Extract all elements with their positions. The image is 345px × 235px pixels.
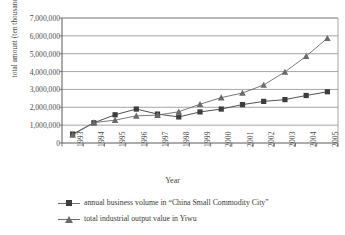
x-tick-label: 1994 <box>97 131 106 147</box>
x-tick-label: 1996 <box>140 131 149 147</box>
data-point-triangle <box>239 90 246 96</box>
series-line <box>73 38 328 135</box>
x-tick-label: 2002 <box>267 131 276 147</box>
data-point-square <box>134 106 139 111</box>
square-marker-icon <box>58 198 80 208</box>
y-tick-label: 7,000,000 <box>14 14 60 23</box>
data-point-triangle <box>260 82 267 88</box>
x-tick-label: 1993 <box>76 131 85 147</box>
data-point-square <box>176 114 181 119</box>
y-axis-tick-labels: 01,000,0002,000,0003,000,0004,000,0005,0… <box>14 0 60 235</box>
legend-item-label: annual business volume in “China Small C… <box>84 199 269 207</box>
legend-item: total industrial output value in Yiwu <box>58 211 345 227</box>
chart-legend: annual business volume in “China Small C… <box>58 195 345 227</box>
data-point-square <box>325 89 330 94</box>
y-tick-label: 2,000,000 <box>14 103 60 112</box>
y-tick-label: 0 <box>14 139 60 148</box>
data-point-square <box>304 93 309 98</box>
x-tick-label: 2005 <box>331 131 340 147</box>
x-tick-label: 1999 <box>203 131 212 147</box>
x-tick-label: 2000 <box>224 131 233 147</box>
data-point-triangle <box>175 108 182 114</box>
triangle-marker-icon <box>58 214 80 224</box>
legend-item-label: total industrial output value in Yiwu <box>84 215 197 223</box>
y-tick-label: 3,000,000 <box>14 85 60 94</box>
x-tick-label: 2001 <box>246 131 255 147</box>
legend-item: annual business volume in “China Small C… <box>58 195 345 211</box>
data-point-square <box>240 102 245 107</box>
x-tick-label: 2003 <box>288 131 297 147</box>
y-tick-label: 4,000,000 <box>14 67 60 76</box>
data-point-square <box>219 106 224 111</box>
x-tick-label: 2004 <box>309 131 318 147</box>
x-tick-label: 1995 <box>118 131 127 147</box>
x-axis-title: Year <box>0 176 345 185</box>
data-point-square <box>112 112 117 117</box>
data-point-square <box>282 97 287 102</box>
x-tick-label: 1998 <box>182 131 191 147</box>
y-tick-label: 1,000,000 <box>14 121 60 130</box>
data-point-square <box>261 99 266 104</box>
data-point-square <box>197 109 202 114</box>
y-tick-label: 5,000,000 <box>14 49 60 58</box>
data-point-triangle <box>197 101 204 107</box>
chart-container: total amount (ten thousand Yuan) 01,000,… <box>0 0 345 235</box>
x-tick-label: 1997 <box>161 131 170 147</box>
y-tick-label: 6,000,000 <box>14 31 60 40</box>
